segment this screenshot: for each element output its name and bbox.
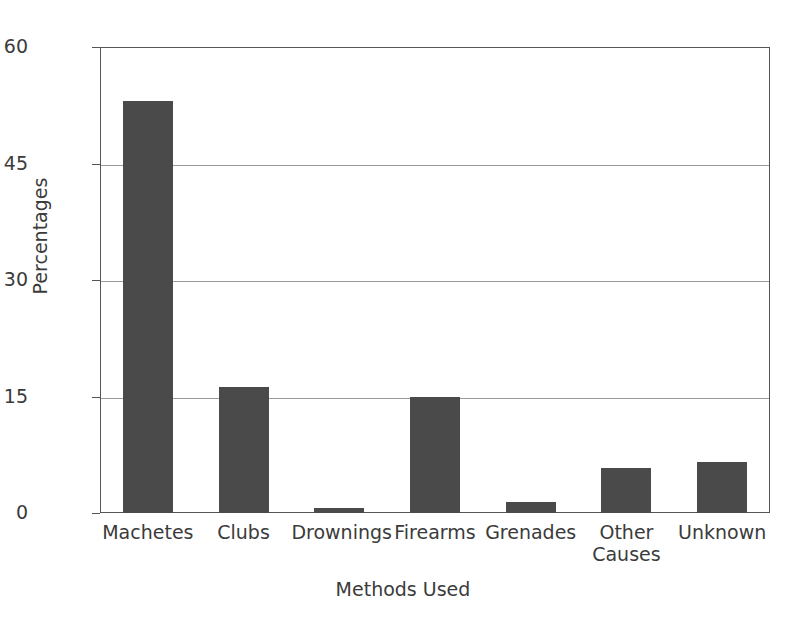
x-axis-title: Methods Used: [0, 578, 806, 600]
x-tick-label-drownings: Drownings: [291, 521, 387, 543]
x-tick-label-other-causes: OtherCauses: [579, 521, 675, 566]
bar: [601, 468, 651, 513]
y-axis-title: Percentages: [29, 136, 51, 336]
bar: [123, 101, 173, 513]
x-tick-label-machetes: Machetes: [100, 521, 196, 543]
y-tick-label-0: 0: [16, 503, 28, 522]
y-tick-label-45: 45: [4, 154, 28, 173]
x-tick-label-unknown: Unknown: [674, 521, 770, 543]
bar-chart: 015304560 Percentages MachetesClubsDrown…: [0, 0, 806, 625]
bar: [410, 397, 460, 514]
y-tick-mark-0: [92, 513, 100, 514]
x-tick-label-line: Grenades: [483, 521, 579, 543]
x-tick-label-line: Firearms: [387, 521, 483, 543]
x-tick-label-clubs: Clubs: [196, 521, 292, 543]
x-tick-label-firearms: Firearms: [387, 521, 483, 543]
x-tick-label-line: Drownings: [291, 521, 387, 543]
bar: [219, 387, 269, 513]
y-tick-label-15: 15: [4, 387, 28, 406]
y-tick-label-30: 30: [4, 270, 28, 289]
y-tick-mark-60: [92, 47, 100, 48]
bar: [314, 508, 364, 513]
y-tick-mark-45: [92, 164, 100, 165]
y-tick-label-60: 60: [4, 37, 28, 56]
y-tick-mark-30: [92, 280, 100, 281]
x-tick-label-line: Other: [579, 521, 675, 543]
x-tick-label-line: Clubs: [196, 521, 292, 543]
bar: [697, 462, 747, 513]
x-tick-label-line: Machetes: [100, 521, 196, 543]
x-tick-label-line: Causes: [579, 543, 675, 565]
x-tick-label-line: Unknown: [674, 521, 770, 543]
x-tick-label-grenades: Grenades: [483, 521, 579, 543]
bar: [506, 502, 556, 513]
bars-group: [100, 47, 770, 513]
y-tick-mark-15: [92, 397, 100, 398]
